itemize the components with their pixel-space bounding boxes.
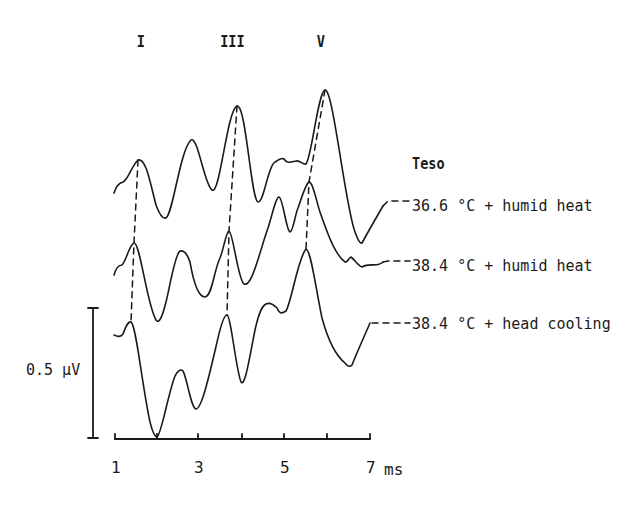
x-tick-7: 7: [366, 460, 376, 476]
x-tick-5: 5: [280, 460, 290, 476]
peak-V-connector: [306, 90, 325, 249]
leader-line-2: [383, 261, 410, 262]
peak-label-III: III: [220, 34, 245, 50]
legend-title: Teso: [412, 156, 445, 172]
x-axis: [115, 434, 370, 439]
peak-label-V: V: [317, 34, 325, 50]
x-tick-1: 1: [111, 460, 121, 476]
scale-bar: [88, 308, 98, 438]
x-axis-unit: ms: [384, 462, 403, 478]
series-label-38-4-humid-heat: 38.4 °C + humid heat: [412, 258, 593, 274]
peak-III-connector: [227, 106, 237, 315]
series-label-36-6-humid-heat: 36.6 °C + humid heat: [412, 198, 593, 214]
trace-36-6-humid-heat: [114, 90, 383, 243]
trace-38-4-humid-heat: [114, 182, 383, 321]
trace-38-4-head-cooling: [114, 249, 370, 437]
leader-line-1: [383, 201, 410, 206]
x-tick-3: 3: [194, 460, 204, 476]
peak-I-connector: [131, 160, 138, 322]
scale-bar-label: 0.5 µV: [26, 362, 80, 378]
abr-waveform-chart: [0, 0, 621, 512]
peak-label-I: I: [137, 34, 145, 50]
series-label-38-4-head-cooling: 38.4 °C + head cooling: [412, 316, 611, 332]
peak-connectors: [131, 90, 325, 322]
